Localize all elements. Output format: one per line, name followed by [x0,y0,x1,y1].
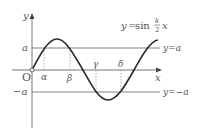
eq-frac-num: k [155,17,159,25]
label-y-equals-a: y=a [162,43,181,53]
eq-x: x [162,20,168,31]
equation-label: y = sin k 2 x [120,17,168,34]
y-axis-label: y [22,10,29,21]
origin-label: O [22,71,31,84]
sine-diagram: y O x a −a α β γ δ y=a y=−a y = sin k 2 … [0,0,207,140]
eq-sin: sin [135,20,150,31]
point-delta: δ [118,59,123,69]
x-axis-label: x [155,72,161,83]
point-alpha: α [41,72,47,82]
eq-y: y [120,20,127,31]
point-beta: β [66,73,72,83]
y-axis-arrow [30,13,35,19]
tick-minus-a: −a [13,86,27,97]
label-y-equals-minus-a: y=−a [162,87,189,97]
eq-frac-den: 2 [155,26,159,34]
tick-a: a [22,42,28,53]
point-gamma: γ [93,59,99,69]
